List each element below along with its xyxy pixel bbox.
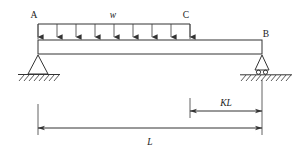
beam-diagram-canvas: KL L A w C B xyxy=(0,0,299,151)
roller-wheel xyxy=(256,70,260,74)
load-arrows xyxy=(38,24,190,37)
label-point-c: C xyxy=(183,10,189,20)
beam-group xyxy=(38,40,262,54)
dim-label-kl: KL xyxy=(219,98,232,108)
beam-body xyxy=(38,40,262,54)
roller-support-right xyxy=(240,55,292,81)
dim-label-l: L xyxy=(146,137,152,147)
dimension-l: L xyxy=(38,128,262,147)
label-point-b: B xyxy=(263,29,269,39)
label-point-a: A xyxy=(31,10,38,20)
pin-support-left xyxy=(18,55,60,81)
roller-triangle xyxy=(255,55,269,70)
beam-diagram: KL L A w C B xyxy=(0,0,299,151)
label-load-w: w xyxy=(110,10,117,20)
ground-hatch-left xyxy=(19,75,59,81)
roller-wheel xyxy=(263,70,267,74)
dimension-kl: KL xyxy=(190,98,262,111)
distributed-load-group xyxy=(38,24,190,39)
pin-triangle xyxy=(28,55,48,74)
ground-hatch-right xyxy=(241,75,291,81)
